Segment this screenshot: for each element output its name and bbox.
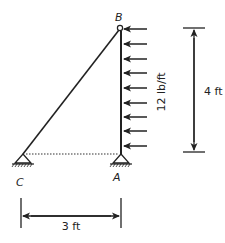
node-label-a: A xyxy=(112,171,121,184)
member-cb xyxy=(23,30,119,154)
vertical-dimension xyxy=(183,28,205,152)
vertical-dimension-label: 4 ft xyxy=(204,85,223,98)
pin-support-c-icon xyxy=(12,154,34,167)
node-label-c: C xyxy=(16,176,24,189)
pin-b-icon xyxy=(117,25,122,30)
pin-support-a-icon xyxy=(110,154,132,167)
truss-diagram: 12 lb/ft 4 ft 3 ft B A C xyxy=(0,0,225,243)
node-label-b: B xyxy=(115,11,123,24)
load-label: 12 lb/ft xyxy=(155,72,168,112)
distributed-load-arrows xyxy=(124,29,147,146)
horizontal-dimension-label: 3 ft xyxy=(62,220,81,233)
